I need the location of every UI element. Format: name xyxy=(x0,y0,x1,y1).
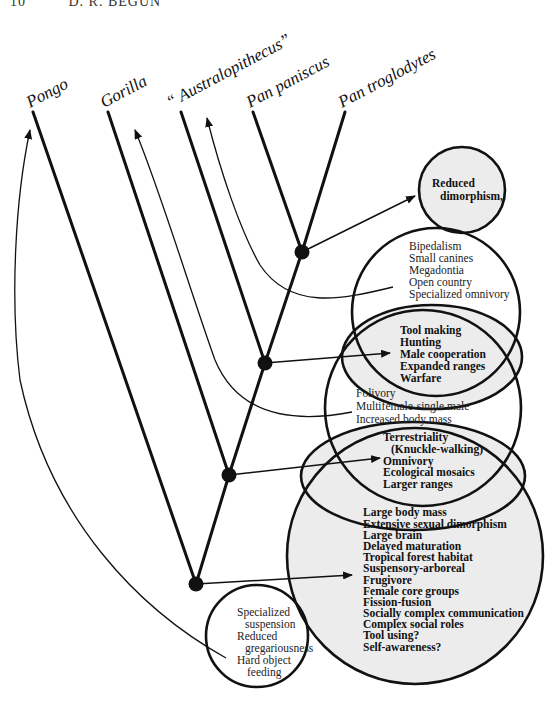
svg-text:Reduced: Reduced xyxy=(432,177,475,189)
taxon-label-gorilla: Gorilla xyxy=(97,71,150,111)
svg-text:Specialized omnivory: Specialized omnivory xyxy=(409,288,510,301)
svg-text:Small canines: Small canines xyxy=(409,252,474,264)
branch-pan-troglodytes xyxy=(302,112,345,252)
node-pan-homo xyxy=(258,356,273,371)
taxon-labels: Pongo Gorilla “ Australopithecus” Pan pa… xyxy=(22,30,439,112)
svg-text:Larger ranges: Larger ranges xyxy=(383,478,453,491)
cladogram: Pongo Gorilla “ Australopithecus” Pan pa… xyxy=(0,0,560,704)
branch-australopithecus xyxy=(181,112,265,363)
svg-text:feeding: feeding xyxy=(247,666,282,679)
stem-n1-n2 xyxy=(265,252,302,363)
svg-text:dimorphism,: dimorphism, xyxy=(440,190,503,203)
taxon-label-pongo: Pongo xyxy=(22,74,71,112)
branch-pongo xyxy=(33,112,196,584)
curve-to-gorilla xyxy=(135,130,352,417)
svg-text:Folivory: Folivory xyxy=(356,387,396,400)
svg-text:Warfare: Warfare xyxy=(400,372,441,384)
taxon-label-pan-troglodytes: Pan troglodytes xyxy=(334,44,439,112)
svg-text:Self-awareness?: Self-awareness? xyxy=(363,641,442,653)
svg-text:Increased body mass: Increased body mass xyxy=(356,413,452,426)
node-pan xyxy=(295,245,310,260)
node-african-ape xyxy=(222,468,237,483)
branch-pan-paniscus xyxy=(253,112,302,252)
node-great-ape xyxy=(189,577,204,592)
stem-n2-n3 xyxy=(229,363,265,475)
branch-gorilla xyxy=(108,112,229,475)
svg-text:Reduced: Reduced xyxy=(237,630,277,642)
svg-text:Multifemale-single male: Multifemale-single male xyxy=(356,400,469,413)
stem-n3-n4 xyxy=(196,475,229,584)
